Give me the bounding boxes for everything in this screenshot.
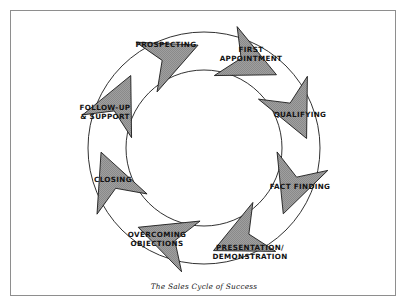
- cycle-step-label-2: FIRSTAPPOINTMENT: [220, 45, 283, 63]
- outer-ring-arc: [88, 32, 320, 264]
- cycle-ring-arcs: [88, 32, 320, 264]
- diagram-page: PROSPECTINGFIRSTAPPOINTMENTQUALIFYINGFAC…: [0, 0, 408, 308]
- cycle-step-label-4: FACT FINDING: [270, 182, 331, 191]
- cycle-step-label-3: QUALIFYING: [274, 110, 327, 119]
- cycle-arrow-4: [258, 76, 307, 138]
- cycle-step-label-1: PROSPECTING: [136, 40, 197, 49]
- cycle-step-label-7: CLOSING: [94, 175, 132, 184]
- cycle-arrow-2: [136, 42, 198, 92]
- sales-cycle-diagram: PROSPECTINGFIRSTAPPOINTMENTQUALIFYINGFAC…: [0, 0, 408, 308]
- cycle-step-label-6: OVERCOMINGOBJECTIONS: [128, 230, 187, 248]
- inner-ring-arc: [126, 70, 282, 226]
- diagram-caption: The Sales Cycle of Success: [151, 282, 258, 291]
- cycle-step-label-8: FOLLOW-UP& SUPPORT: [80, 103, 131, 121]
- cycle-arrow-group: [83, 27, 328, 272]
- cycle-step-label-5: PRESENTATION/DEMONSTRATION: [212, 243, 287, 261]
